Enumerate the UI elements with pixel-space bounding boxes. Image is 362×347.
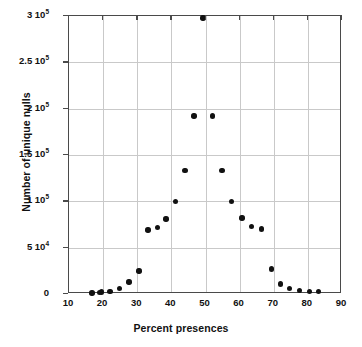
gridline-vertical bbox=[137, 16, 138, 292]
x-axis-tick-label: 30 bbox=[121, 297, 151, 308]
x-axis-tick bbox=[307, 15, 308, 20]
x-axis-tick-label: 20 bbox=[87, 297, 117, 308]
data-point bbox=[239, 215, 244, 220]
gridline-horizontal bbox=[69, 155, 340, 156]
data-point bbox=[117, 286, 122, 291]
y-axis-tick bbox=[63, 293, 68, 294]
gridline-horizontal bbox=[69, 248, 340, 249]
x-axis-tick bbox=[102, 15, 103, 20]
y-axis-tick bbox=[63, 108, 68, 109]
data-point bbox=[89, 290, 94, 295]
x-axis-tick-label: 50 bbox=[190, 297, 220, 308]
scatter-plot-figure: 05 1041 1051.5 1052 1052.5 1053 105 1020… bbox=[0, 0, 362, 347]
x-axis-tick-label: 10 bbox=[53, 297, 83, 308]
y-axis-tick bbox=[63, 154, 68, 155]
x-axis-tick bbox=[136, 15, 137, 20]
y-axis-tick bbox=[63, 247, 68, 248]
x-axis-tick-label: 90 bbox=[326, 297, 356, 308]
data-point bbox=[269, 266, 274, 271]
x-axis-tick-label: 40 bbox=[155, 297, 185, 308]
data-point bbox=[173, 199, 178, 204]
y-axis-tick-label: 3 105 bbox=[0, 10, 58, 20]
data-point bbox=[259, 226, 264, 231]
plot-area bbox=[68, 15, 341, 293]
gridline-vertical bbox=[103, 16, 104, 292]
data-point bbox=[249, 224, 254, 229]
data-point bbox=[136, 268, 141, 273]
gridline-vertical bbox=[240, 16, 241, 292]
gridline-vertical bbox=[171, 16, 172, 292]
gridline-horizontal bbox=[69, 109, 340, 110]
x-axis-tick-label: 60 bbox=[224, 297, 254, 308]
gridline-vertical bbox=[308, 16, 309, 292]
y-axis-tick bbox=[63, 200, 68, 201]
x-axis-tick bbox=[68, 15, 69, 20]
x-axis-tick bbox=[341, 15, 342, 20]
data-point bbox=[145, 227, 150, 232]
data-point bbox=[307, 289, 312, 294]
data-point bbox=[316, 289, 321, 294]
data-point bbox=[297, 288, 302, 293]
data-point bbox=[278, 281, 283, 286]
data-point bbox=[182, 168, 187, 173]
data-point bbox=[210, 113, 215, 118]
y-axis-tick-label: 0 bbox=[0, 288, 58, 298]
data-point bbox=[155, 225, 160, 230]
y-axis-title: Number of unique nulls bbox=[20, 52, 32, 252]
data-point bbox=[126, 279, 131, 284]
data-point bbox=[219, 168, 224, 173]
data-point bbox=[229, 199, 234, 204]
x-axis-tick-label: 70 bbox=[258, 297, 288, 308]
gridline-vertical bbox=[206, 16, 207, 292]
data-point bbox=[99, 289, 104, 294]
x-axis-tick bbox=[170, 15, 171, 20]
x-axis-tick-label: 80 bbox=[292, 297, 322, 308]
x-axis-tick bbox=[273, 15, 274, 20]
y-axis-tick bbox=[63, 61, 68, 62]
data-point bbox=[163, 216, 168, 221]
gridline-horizontal bbox=[69, 201, 340, 202]
data-point bbox=[191, 113, 196, 118]
gridline-horizontal bbox=[69, 62, 340, 63]
data-point bbox=[287, 286, 292, 291]
x-axis-tick bbox=[239, 15, 240, 20]
gridline-vertical bbox=[274, 16, 275, 292]
x-axis-title: Percent presences bbox=[0, 322, 362, 334]
x-axis-tick bbox=[205, 15, 206, 20]
data-point bbox=[107, 289, 112, 294]
